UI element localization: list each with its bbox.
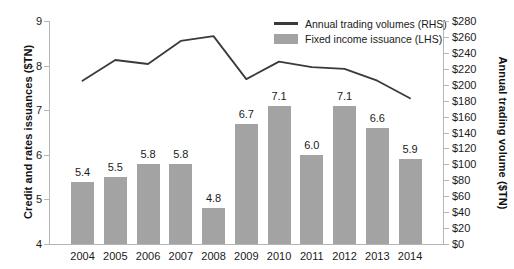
legend-item-fixed-income: Fixed income issuance (LHS) bbox=[274, 31, 474, 46]
legend-label-trading-volumes: Annual trading volumes (RHS) bbox=[305, 18, 447, 30]
line-swatch-icon bbox=[274, 22, 298, 25]
bar bbox=[202, 208, 225, 244]
y-axis-left-tick-label: 4 bbox=[18, 238, 42, 250]
x-axis-tick-label: 2008 bbox=[201, 250, 225, 262]
bar-value-label: 5.4 bbox=[75, 166, 90, 178]
y-axis-right-tick-label: $140 bbox=[452, 127, 476, 139]
bar-swatch-icon bbox=[274, 34, 298, 44]
y-axis-right-tick-label: $240 bbox=[452, 47, 476, 59]
bar-value-label: 6.6 bbox=[370, 112, 385, 124]
x-axis-tick-label: 2006 bbox=[136, 250, 160, 262]
y-axis-right-tick-mark bbox=[443, 69, 449, 70]
bar bbox=[333, 106, 356, 244]
bar bbox=[268, 106, 291, 244]
bar-value-label: 7.1 bbox=[337, 90, 352, 102]
y-axis-right-tick-label: $40 bbox=[452, 206, 470, 218]
y-axis-left-tick-label: 9 bbox=[18, 15, 42, 27]
bar bbox=[71, 182, 94, 244]
y-axis-right-tick-label: $60 bbox=[452, 190, 470, 202]
y-axis-right-tick-mark bbox=[443, 196, 449, 197]
y-axis-right-tick-mark bbox=[443, 228, 449, 229]
y-axis-right-tick-label: $20 bbox=[452, 222, 470, 234]
y-axis-left-tick-mark bbox=[44, 199, 50, 200]
bar-value-label: 5.8 bbox=[173, 148, 188, 160]
x-axis-line bbox=[49, 244, 444, 245]
y-axis-right-tick-label: $220 bbox=[452, 63, 476, 75]
x-axis-tick-label: 2010 bbox=[267, 250, 291, 262]
y-axis-right-tick-mark bbox=[443, 101, 449, 102]
bar bbox=[366, 128, 389, 244]
y-axis-right-tick-label: $200 bbox=[452, 79, 476, 91]
y-axis-left-tick-mark bbox=[44, 110, 50, 111]
x-axis-tick-label: 2012 bbox=[332, 250, 356, 262]
y-axis-right-tick-mark bbox=[443, 21, 449, 22]
bar-value-label: 4.8 bbox=[206, 192, 221, 204]
x-axis-tick-label: 2014 bbox=[398, 250, 422, 262]
y-axis-right-tick-mark bbox=[443, 212, 449, 213]
y-axis-right-tick-mark bbox=[443, 37, 449, 38]
x-axis-tick-label: 2013 bbox=[365, 250, 389, 262]
y-axis-title-right: Annual trading volume ($TN) bbox=[497, 48, 509, 218]
y-axis-left-tick-mark bbox=[44, 155, 50, 156]
y-axis-left-tick-label: 5 bbox=[18, 193, 42, 205]
y-axis-right-tick-mark bbox=[443, 133, 449, 134]
y-axis-right-tick-label: $0 bbox=[452, 238, 464, 250]
y-axis-left-tick-label: 7 bbox=[18, 104, 42, 116]
y-axis-right-tick-mark bbox=[443, 244, 449, 245]
y-axis-right-tick-mark bbox=[443, 53, 449, 54]
bar bbox=[104, 177, 127, 244]
y-axis-right-tick-label: $120 bbox=[452, 142, 476, 154]
bar-value-label: 7.1 bbox=[271, 90, 286, 102]
y-axis-right-tick-mark bbox=[443, 180, 449, 181]
bar-value-label: 5.8 bbox=[140, 148, 155, 160]
y-axis-left-tick-mark bbox=[44, 21, 50, 22]
bar bbox=[137, 164, 160, 244]
x-axis-tick-label: 2005 bbox=[103, 250, 127, 262]
bar-value-label: 5.5 bbox=[108, 161, 123, 173]
y-axis-right-tick-mark bbox=[443, 148, 449, 149]
bar-value-label: 5.9 bbox=[402, 143, 417, 155]
y-axis-left-ticks: 456789 bbox=[18, 0, 42, 269]
y-axis-right-tick-mark bbox=[443, 117, 449, 118]
y-axis-left-tick-mark bbox=[44, 244, 50, 245]
y-axis-left-tick-mark bbox=[44, 66, 50, 67]
y-axis-left-tick-label: 6 bbox=[18, 149, 42, 161]
bar bbox=[169, 164, 192, 244]
bar bbox=[235, 124, 258, 244]
legend-label-fixed-income: Fixed income issuance (LHS) bbox=[305, 33, 442, 45]
y-axis-left-tick-label: 8 bbox=[18, 60, 42, 72]
bar-value-label: 6.0 bbox=[304, 139, 319, 151]
plot-area bbox=[50, 21, 443, 244]
x-axis-tick-label: 2009 bbox=[234, 250, 258, 262]
x-axis-tick-label: 2004 bbox=[70, 250, 94, 262]
y-axis-right-tick-label: $160 bbox=[452, 111, 476, 123]
chart-container: Credit and rates issuances ($TN) Annual … bbox=[0, 0, 514, 269]
bar bbox=[399, 159, 422, 244]
y-axis-right-tick-label: $80 bbox=[452, 174, 470, 186]
y-axis-right-tick-mark bbox=[443, 85, 449, 86]
y-axis-right-tick-label: $100 bbox=[452, 158, 476, 170]
legend-item-trading-volumes: Annual trading volumes (RHS) bbox=[274, 16, 474, 31]
y-axis-right-tick-mark bbox=[443, 164, 449, 165]
bar bbox=[300, 155, 323, 244]
x-axis-tick-label: 2011 bbox=[300, 250, 324, 262]
bar-value-label: 6.7 bbox=[239, 108, 254, 120]
y-axis-right-tick-label: $180 bbox=[452, 95, 476, 107]
x-axis-tick-label: 2007 bbox=[169, 250, 193, 262]
